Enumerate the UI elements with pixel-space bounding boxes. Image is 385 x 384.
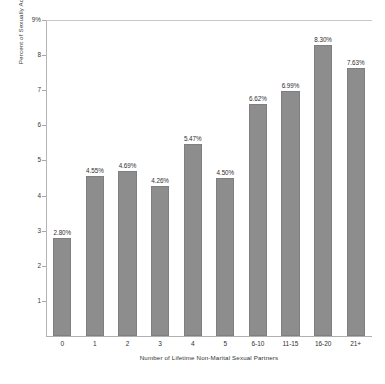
bar-value-label: 7.63% bbox=[335, 59, 377, 66]
bar bbox=[53, 238, 71, 336]
x-axis-tick-label: 1 bbox=[79, 340, 112, 347]
x-axis-tick-label: 6-10 bbox=[242, 340, 275, 347]
bar-value-label: 6.99% bbox=[270, 82, 312, 89]
bar-slot: 7.63% bbox=[339, 20, 372, 336]
y-axis-tick-label: 5 bbox=[0, 155, 46, 165]
y-axis-title: Percent of Sexually Active Women Aged 15… bbox=[14, 0, 28, 92]
y-axis-tick-label: 3 bbox=[0, 226, 46, 236]
bar bbox=[86, 176, 104, 336]
x-axis-tick-label: 4 bbox=[176, 340, 209, 347]
bar-slot: 4.50% bbox=[209, 20, 242, 336]
bar-value-label: 2.80% bbox=[41, 229, 83, 236]
bar-series: 2.80%4.55%4.69%4.26%5.47%4.50%6.62%6.99%… bbox=[46, 20, 372, 336]
bar-value-label: 6.62% bbox=[237, 95, 279, 102]
x-axis-tick-label: 21+ bbox=[339, 340, 372, 347]
bar bbox=[347, 68, 365, 336]
x-axis-ticks: 0123456-1011-1516-2021+ bbox=[46, 337, 372, 353]
bar-value-label: 8.30% bbox=[302, 36, 344, 43]
bar-slot: 4.55% bbox=[79, 20, 112, 336]
bar bbox=[281, 91, 299, 336]
bar-slot: 6.62% bbox=[242, 20, 275, 336]
bar-slot: 2.80% bbox=[46, 20, 79, 336]
bar bbox=[314, 45, 332, 336]
x-axis-tick-label: 2 bbox=[111, 340, 144, 347]
bar-chart-figure: Percent of Sexually Active Women Aged 15… bbox=[0, 0, 385, 384]
y-axis-tick-label: 9% bbox=[0, 15, 46, 25]
bar-value-label: 5.47% bbox=[172, 135, 214, 142]
bar-slot: 8.30% bbox=[307, 20, 340, 336]
bar bbox=[249, 104, 267, 336]
y-axis-tick-label: 6 bbox=[0, 120, 46, 130]
bar-slot: 5.47% bbox=[176, 20, 209, 336]
y-axis-tick-label: 8 bbox=[0, 50, 46, 60]
bar bbox=[151, 186, 169, 336]
bar-value-label: 4.50% bbox=[204, 169, 246, 176]
y-axis-tick-label: 7 bbox=[0, 85, 46, 95]
y-axis-tick-label: 2 bbox=[0, 261, 46, 271]
x-axis-title: Number of Lifetime Non-Marital Sexual Pa… bbox=[46, 354, 372, 361]
bar-value-label: 4.26% bbox=[139, 177, 181, 184]
x-axis-tick-label: 11-15 bbox=[274, 340, 307, 347]
y-axis-tick-label: 1 bbox=[0, 296, 46, 306]
bar-slot: 4.26% bbox=[144, 20, 177, 336]
bar-value-label: 4.69% bbox=[107, 162, 149, 169]
x-axis-tick-label: 0 bbox=[46, 340, 79, 347]
x-axis-tick-label: 16-20 bbox=[307, 340, 340, 347]
y-axis-tick-label: 4 bbox=[0, 191, 46, 201]
bar-slot: 6.99% bbox=[274, 20, 307, 336]
x-axis-tick-label: 3 bbox=[144, 340, 177, 347]
x-axis-tick-label: 5 bbox=[209, 340, 242, 347]
bar bbox=[118, 171, 136, 336]
bar bbox=[184, 144, 202, 336]
bar bbox=[216, 178, 234, 336]
